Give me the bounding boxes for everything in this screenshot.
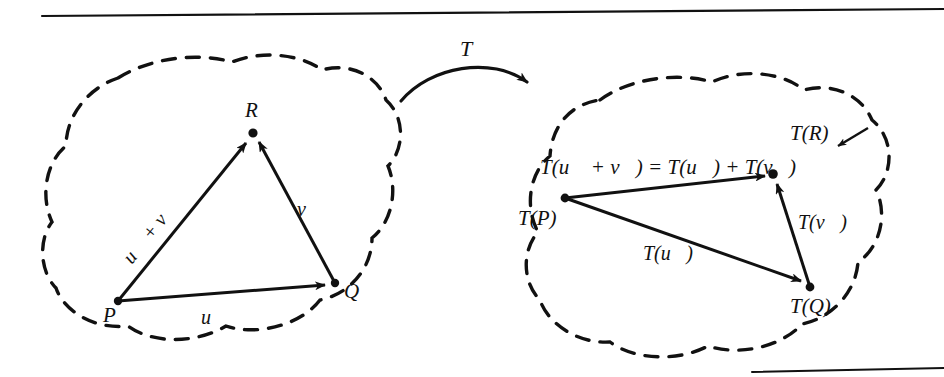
point-label-TP: T(P) — [518, 208, 557, 229]
point-Q-dot — [331, 279, 339, 287]
point-label-Q: Q — [344, 281, 359, 302]
vector-Tuv-shaft — [565, 176, 765, 198]
point-label-R: R — [245, 100, 258, 121]
vector-label-Tu: T(u⃗) — [643, 243, 693, 263]
vector-label-Tuv-identity: T(u⃗ + v⃗) = T(u⃗) + T(v⃗) — [540, 157, 796, 178]
vector-u-plus-v-shaft — [118, 143, 246, 301]
figure-canvas: T P R Q u⃗ v⃗ u⃗ + v⃗ T(P) T(R) T(Q) T(u… — [0, 0, 944, 377]
transformation-label: T — [460, 38, 472, 60]
point-TP-dot — [561, 194, 570, 203]
vector-Tv-shaft — [777, 184, 810, 287]
vector-Tu-shaft — [565, 198, 801, 281]
point-R-dot — [248, 128, 257, 137]
vector-label-Tv: T(v⃗) — [798, 212, 847, 232]
top-rule — [42, 9, 944, 16]
vector-label-u: u⃗ — [201, 307, 227, 327]
transformation-arrow — [401, 67, 527, 101]
TR-leader-arrow — [838, 128, 868, 146]
bottom-rule — [752, 368, 944, 372]
point-label-TQ: T(Q) — [790, 296, 831, 317]
point-TQ-dot — [806, 283, 815, 292]
point-label-P: P — [103, 305, 116, 326]
vector-u-shaft — [118, 285, 325, 301]
vector-label-v: v⃗ — [297, 199, 321, 219]
point-label-TR: T(R) — [790, 123, 829, 144]
